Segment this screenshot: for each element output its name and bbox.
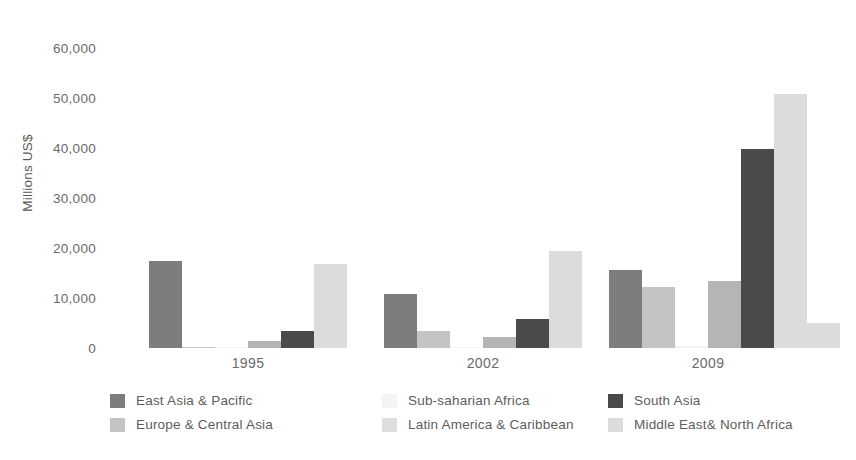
y-tick-label: 60,000 xyxy=(10,41,96,56)
legend-column-2: Sub-saharian AfricaLatin America & Carib… xyxy=(382,390,574,438)
bar-2009-trailing-light-bar xyxy=(807,323,840,348)
x-tick-label-2009: 2009 xyxy=(692,355,725,371)
bar-2002-europe-central-asia xyxy=(417,331,450,349)
legend-item[interactable]: Middle East& North Africa xyxy=(608,414,793,435)
bar-1995-middle-east-north-africa xyxy=(314,264,347,348)
y-tick-label: 20,000 xyxy=(10,241,96,256)
y-tick-label: 50,000 xyxy=(10,91,96,106)
legend-swatch-icon xyxy=(110,418,125,432)
bar-2009-latin-america-caribbean xyxy=(708,281,741,349)
legend-column-1: East Asia & PacificEurope & Central Asia xyxy=(110,390,273,438)
legend-swatch-icon xyxy=(382,418,397,432)
x-tick-label-1995: 1995 xyxy=(232,355,265,371)
legend-swatch-icon xyxy=(110,394,125,408)
legend-item[interactable]: East Asia & Pacific xyxy=(110,390,273,411)
bar-2002-south-asia xyxy=(516,319,549,348)
bar-2002-middle-east-north-africa xyxy=(549,251,582,348)
bar-group-2009 xyxy=(609,48,807,348)
legend-item[interactable]: South Asia xyxy=(608,390,793,411)
legend-swatch-icon xyxy=(608,418,623,432)
bar-2009-europe-central-asia xyxy=(642,287,675,349)
y-tick-label: 10,000 xyxy=(10,291,96,306)
legend-label: Middle East& North Africa xyxy=(634,417,793,432)
bar-2002-east-asia-pacific xyxy=(384,294,417,348)
legend-item[interactable]: Sub-saharian Africa xyxy=(382,390,574,411)
bar-2002-latin-america-caribbean xyxy=(483,337,516,348)
y-axis-tick-labels: 60,00050,00040,00030,00020,00010,0000 xyxy=(10,0,96,460)
y-tick-label: 0 xyxy=(10,341,96,356)
y-tick-label: 30,000 xyxy=(10,191,96,206)
legend-swatch-icon xyxy=(608,394,623,408)
bar-group-2002 xyxy=(384,48,582,348)
legend-label: South Asia xyxy=(634,393,701,408)
chart-legend: East Asia & PacificEurope & Central Asia… xyxy=(110,390,850,440)
legend-label: Latin America & Caribbean xyxy=(408,417,574,432)
legend-column-3: South AsiaMiddle East& North Africa xyxy=(608,390,793,438)
legend-item[interactable]: Latin America & Caribbean xyxy=(382,414,574,435)
bar-2009-south-asia xyxy=(741,149,774,348)
bar-1995-latin-america-caribbean xyxy=(248,341,281,349)
legend-label: East Asia & Pacific xyxy=(136,393,252,408)
plot-area xyxy=(104,48,844,348)
legend-item[interactable]: Europe & Central Asia xyxy=(110,414,273,435)
x-axis-baseline xyxy=(104,348,846,349)
x-tick-label-2002: 2002 xyxy=(467,355,500,371)
bar-1995-east-asia-pacific xyxy=(149,261,182,349)
bar-chart: Millions US$ 60,00050,00040,00030,00020,… xyxy=(0,0,856,460)
y-tick-label: 40,000 xyxy=(10,141,96,156)
legend-label: Europe & Central Asia xyxy=(136,417,273,432)
bar-group-1995 xyxy=(149,48,347,348)
legend-label: Sub-saharian Africa xyxy=(408,393,530,408)
bar-2009-east-asia-pacific xyxy=(609,270,642,349)
bar-2009-middle-east-north-africa xyxy=(774,94,807,348)
legend-swatch-icon xyxy=(382,394,397,408)
bar-1995-south-asia xyxy=(281,331,314,349)
